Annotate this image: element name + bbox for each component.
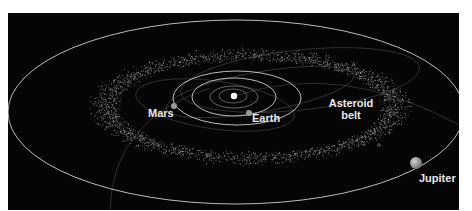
planet-jupiter-icon (410, 157, 422, 169)
celestial-bodies (171, 93, 422, 169)
sun-icon (231, 93, 237, 99)
eccentric-orbits (110, 38, 459, 210)
solar-system-diagram (0, 0, 472, 211)
label-asteroid-belt-line2: belt (326, 109, 376, 121)
small-object-icon (378, 144, 381, 147)
label-mars: Mars (148, 107, 174, 119)
label-jupiter: Jupiter (419, 172, 456, 184)
label-asteroid-belt: Asteroid belt (326, 97, 376, 121)
label-earth: Earth (252, 112, 280, 124)
label-asteroid-belt-line1: Asteroid (326, 97, 376, 109)
